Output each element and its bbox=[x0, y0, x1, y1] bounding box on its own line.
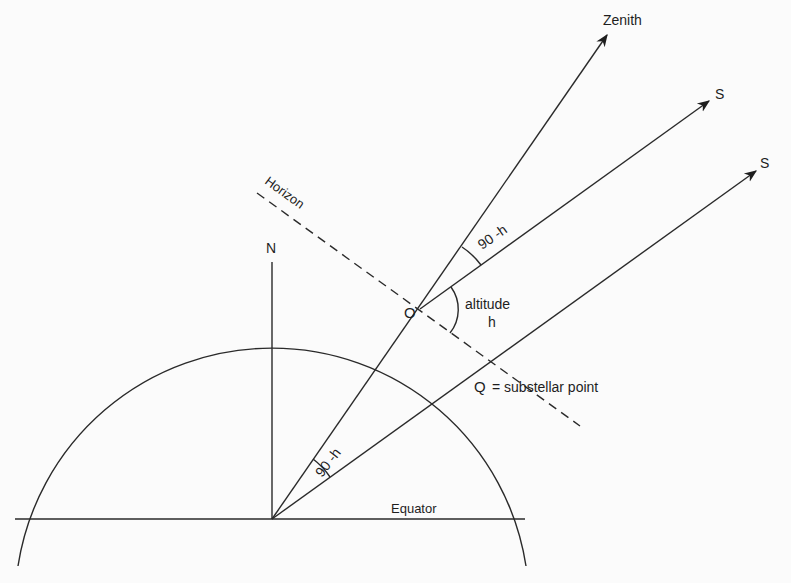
horizon-label: Horizon bbox=[262, 173, 307, 211]
celestial-geometry-diagram: Zenith S S Horizon N O 90 -h altitude h … bbox=[0, 0, 791, 583]
altitude-label: altitude bbox=[465, 296, 510, 312]
observer-label: O bbox=[404, 304, 416, 321]
star-label-lower: S bbox=[760, 155, 769, 171]
angle-arc-altitude bbox=[450, 287, 458, 333]
zenith-label: Zenith bbox=[603, 12, 642, 28]
zenith-angle-lower-label: 90 -h bbox=[312, 445, 344, 480]
substellar-desc-label: = substellar point bbox=[492, 379, 598, 395]
equator-label: Equator bbox=[391, 501, 437, 516]
star-ray-lower bbox=[272, 171, 756, 519]
north-label: N bbox=[266, 240, 276, 256]
angle-arc-zenith-upper bbox=[462, 247, 481, 265]
star-label-upper: S bbox=[715, 86, 724, 102]
zenith-line bbox=[272, 35, 607, 519]
star-ray-upper bbox=[420, 101, 709, 309]
altitude-symbol-label: h bbox=[488, 314, 496, 330]
substellar-point-label: Q bbox=[474, 378, 486, 395]
